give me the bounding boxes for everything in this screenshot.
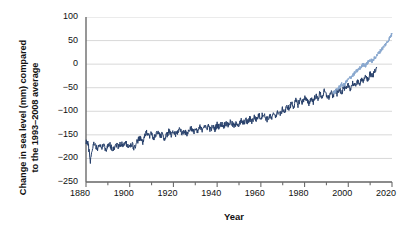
plot-area: [80, 17, 386, 182]
y-tick-label: 0: [48, 58, 78, 68]
series-line-satellite: [333, 33, 392, 94]
y-tick-label: 50: [48, 35, 78, 45]
y-tick-label: −150: [48, 129, 78, 139]
y-tick-label: −50: [48, 82, 78, 92]
y-tick-label: −100: [48, 105, 78, 115]
y-axis-tick-labels: 100500−50−100−150−200−250: [40, 0, 78, 235]
x-axis-title: Year: [78, 211, 390, 222]
y-tick-label: −250: [48, 176, 78, 186]
series-line-tide_gauge: [86, 67, 377, 164]
y-tick-label: −200: [48, 152, 78, 162]
sea-level-chart: Change in sea level (mm) compared to the…: [0, 0, 414, 235]
y-tick-label: 100: [48, 11, 78, 21]
